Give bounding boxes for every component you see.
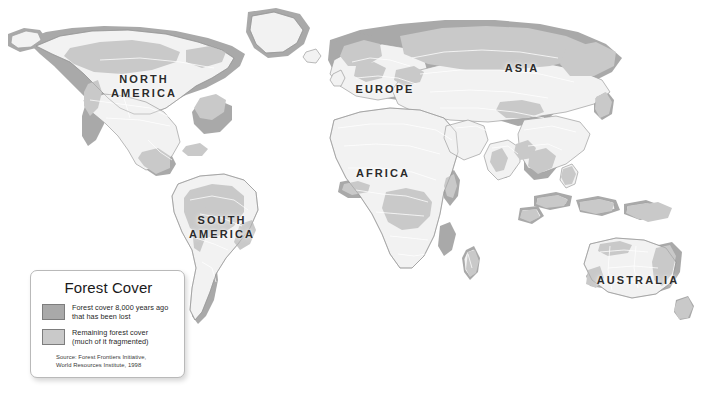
world-forest-cover-map: NORTH AMERICA SOUTH AMERICA EUROPE AFRIC… (0, 0, 704, 407)
legend-label-lost-forest: Forest cover 8,000 years ago that has be… (72, 303, 168, 322)
legend-swatch-lost-forest (42, 304, 65, 320)
legend-title: Forest Cover (42, 279, 175, 296)
legend-source-credit: Source: Forest Frontiers Initiative, Wor… (56, 353, 175, 369)
legend-label-remaining-forest: Remaining forest cover (much of it fragm… (72, 328, 149, 347)
map-legend: Forest Cover Forest cover 8,000 years ag… (30, 270, 185, 378)
legend-swatch-remaining-forest (42, 329, 65, 345)
legend-entry-remaining-forest: Remaining forest cover (much of it fragm… (42, 328, 175, 347)
legend-entry-lost-forest: Forest cover 8,000 years ago that has be… (42, 303, 175, 322)
